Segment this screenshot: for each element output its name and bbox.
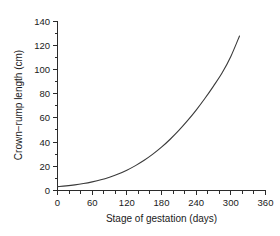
x-tick-label: 360	[258, 197, 274, 208]
x-tick-label: 120	[119, 197, 135, 208]
x-tick-label: 240	[188, 197, 204, 208]
y-tick-label: 0	[45, 185, 50, 196]
y-tick-label: 60	[39, 112, 50, 123]
y-tick-label: 80	[39, 88, 50, 99]
line-chart: 140 120 100 80 60 40 20 0 0 60 120 180 2…	[0, 0, 280, 236]
y-tick-label: 100	[34, 64, 50, 75]
x-tick-label: 180	[154, 197, 170, 208]
x-tick-label: 0	[55, 197, 60, 208]
y-tick-label: 20	[39, 161, 50, 172]
y-tick-label: 140	[34, 16, 50, 27]
y-tick-label: 120	[34, 40, 50, 51]
y-axis-title: Crown−rump length (cm)	[13, 50, 24, 160]
x-axis-title: Stage of gestation (days)	[106, 213, 217, 224]
chart-figure: 140 120 100 80 60 40 20 0 0 60 120 180 2…	[0, 0, 280, 236]
y-tick-label: 40	[39, 137, 50, 148]
x-tick-label: 300	[223, 197, 239, 208]
x-tick-label: 60	[87, 197, 98, 208]
